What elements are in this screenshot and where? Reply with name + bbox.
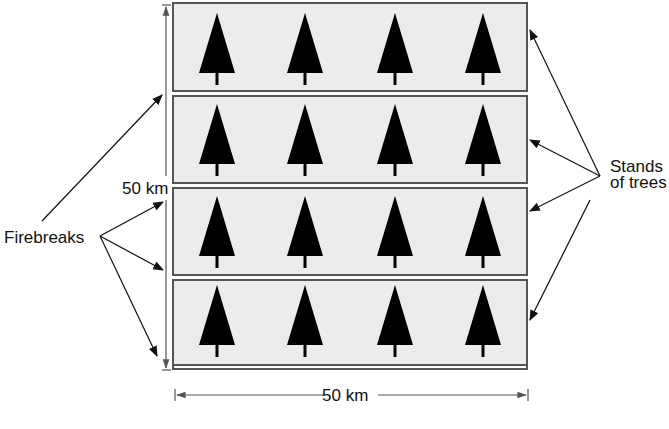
forest-diagram [0, 0, 669, 429]
width-dimension-label: 50 km [322, 387, 368, 404]
height-dimension-label: 50 km [122, 180, 168, 197]
stand-arrows [530, 30, 600, 320]
firebreaks-label: Firebreaks [4, 229, 84, 246]
firebreak-arrows [42, 95, 163, 356]
stands-label-line2: of trees [610, 174, 667, 191]
